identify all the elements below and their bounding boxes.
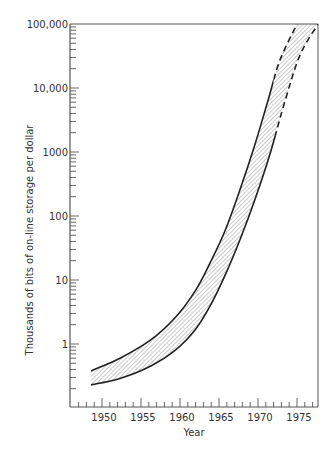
y-axis-title: Thousands of bits of on-line storage per…	[24, 124, 35, 357]
x-tick-label: 1970	[247, 412, 272, 423]
y-tick-label: 10	[55, 275, 68, 286]
storage-cost-chart: 110100100010,000100,000 1950195519601965…	[0, 0, 330, 450]
y-tick-label: 100,000	[27, 19, 68, 30]
y-tick-label: 100	[49, 211, 68, 222]
y-tick-label: 1	[62, 339, 68, 350]
x-tick-label: 1955	[130, 412, 155, 423]
hatched-band	[91, 24, 318, 385]
x-tick-label: 1965	[208, 412, 233, 423]
x-tick-label: 1975	[286, 412, 311, 423]
x-axis: 195019551960196519701975	[79, 398, 313, 423]
y-tick-label: 10,000	[33, 83, 68, 94]
x-tick-label: 1950	[91, 412, 116, 423]
y-tick-label: 1000	[43, 147, 68, 158]
x-tick-label: 1960	[169, 412, 194, 423]
x-axis-title: Year	[182, 427, 205, 438]
